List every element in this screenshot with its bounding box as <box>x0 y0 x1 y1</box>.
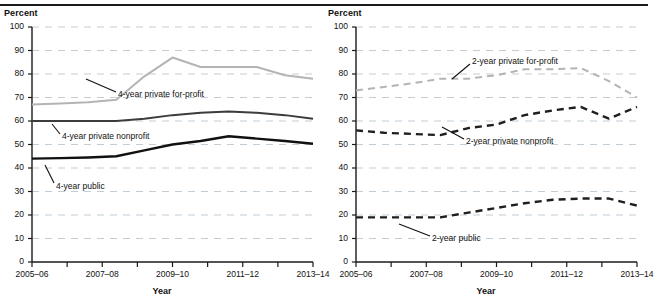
panel-four-year: Percent01020304050607080901002005–062007… <box>0 0 324 303</box>
y-tick-label: 60 <box>326 115 348 125</box>
series-annotation-label: 2-year private nonprofit <box>466 136 553 146</box>
y-tick-label: 90 <box>2 45 24 55</box>
series-annotation-label: 4-year private nonprofit <box>62 131 149 141</box>
x-tick-label: 2011–12 <box>217 269 269 279</box>
y-tick-label: 70 <box>326 92 348 102</box>
y-tick-label: 30 <box>326 186 348 196</box>
y-tick-label: 20 <box>2 209 24 219</box>
y-tick-label: 30 <box>2 186 24 196</box>
y-tick-label: 20 <box>326 209 348 219</box>
x-tick-label: 2005–06 <box>6 269 58 279</box>
y-tick-label: 100 <box>326 21 348 31</box>
y-tick-label: 10 <box>326 233 348 243</box>
y-tick-label: 100 <box>2 21 24 31</box>
y-tick-label: 50 <box>2 139 24 149</box>
y-tick-label: 40 <box>326 162 348 172</box>
annotation-leader-line <box>52 124 60 134</box>
y-tick-label: 80 <box>326 68 348 78</box>
x-axis-title: Year <box>324 286 648 296</box>
x-tick-label: 2011–12 <box>541 269 593 279</box>
series-annotation-label: 2-year private for-profit <box>472 56 558 66</box>
x-tick-label: 2007–08 <box>76 269 128 279</box>
series-line <box>356 68 637 97</box>
series-annotation-label: 2-year public <box>432 233 481 243</box>
series-annotation-label: 4-year public <box>56 181 105 191</box>
y-tick-label: 0 <box>2 256 24 266</box>
x-tick-label: 2013–14 <box>611 269 658 279</box>
x-tick-label: 2007–08 <box>400 269 452 279</box>
y-tick-label: 10 <box>2 233 24 243</box>
y-tick-label: 40 <box>2 162 24 172</box>
x-tick-label: 2009–10 <box>147 269 199 279</box>
series-annotation-label: 4-year private for-profit <box>118 89 204 99</box>
y-tick-label: 60 <box>2 115 24 125</box>
x-tick-label: 2009–10 <box>471 269 523 279</box>
y-tick-label: 0 <box>326 256 348 266</box>
annotation-leader-line <box>86 79 116 92</box>
y-tick-label: 70 <box>2 92 24 102</box>
y-tick-label: 90 <box>326 45 348 55</box>
annotation-leader-line <box>399 224 430 236</box>
x-axis-title: Year <box>0 286 324 296</box>
x-tick-label: 2005–06 <box>330 269 382 279</box>
annotation-leader-line <box>452 64 470 79</box>
y-tick-label: 50 <box>326 139 348 149</box>
y-tick-label: 80 <box>2 68 24 78</box>
panel-two-year: Percent01020304050607080901002005–062007… <box>324 0 648 303</box>
series-line <box>32 112 313 121</box>
